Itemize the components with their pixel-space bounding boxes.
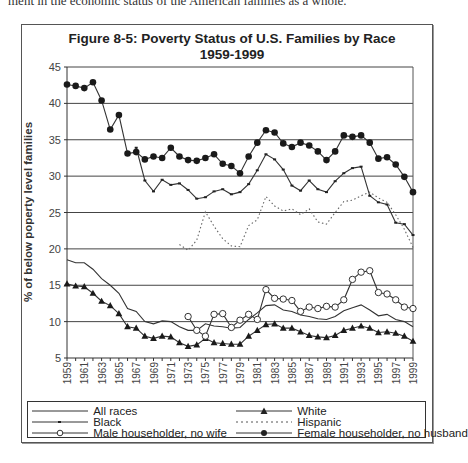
series-black bbox=[135, 147, 415, 236]
legend-item-male-householder: Male householder, no wife bbox=[30, 426, 227, 438]
x-tick-label: 1963 bbox=[97, 362, 108, 385]
x-tick-label: 1971 bbox=[166, 362, 177, 385]
x-tick-label: 1961 bbox=[79, 362, 90, 385]
gridlines bbox=[67, 67, 413, 322]
y-axis-ticks: 51015202530354045 bbox=[49, 61, 67, 364]
line-chart: Figure 8-5: Poverty Status of U.S. Famil… bbox=[0, 0, 450, 400]
x-tick-label: 1975 bbox=[200, 362, 211, 385]
x-tick-label: 1967 bbox=[131, 362, 142, 385]
legend-label: Female householder, no husband bbox=[297, 427, 468, 439]
chart-legend: All races Black Male householder, no wif… bbox=[27, 401, 426, 438]
chart-title: Figure 8-5: Poverty Status of U.S. Famil… bbox=[68, 31, 396, 46]
x-tick-label: 1997 bbox=[391, 362, 402, 385]
x-axis-ticks: 1959196119631965196719691971197319751977… bbox=[62, 358, 419, 384]
x-tick-label: 1979 bbox=[235, 362, 246, 385]
x-tick-label: 1991 bbox=[339, 362, 350, 385]
x-tick-label: 1993 bbox=[356, 362, 367, 385]
legend-swatch-filled-circle-icon bbox=[234, 428, 294, 438]
y-tick-label: 15 bbox=[49, 279, 61, 291]
legend-swatch-open-circle-icon bbox=[30, 428, 90, 438]
y-tick-label: 30 bbox=[49, 170, 61, 182]
y-tick-label: 45 bbox=[49, 61, 61, 73]
y-tick-label: 5 bbox=[55, 352, 61, 364]
x-tick-label: 1995 bbox=[373, 362, 384, 385]
x-tick-label: 1987 bbox=[304, 362, 315, 385]
x-tick-label: 1965 bbox=[114, 362, 125, 385]
x-tick-label: 1977 bbox=[218, 362, 229, 385]
legend-item-female-householder: Female householder, no husband bbox=[234, 426, 468, 438]
series-female-householder-no-husband bbox=[64, 79, 417, 195]
series-hispanic bbox=[179, 192, 413, 250]
x-tick-label: 1983 bbox=[270, 362, 281, 385]
x-tick-label: 1985 bbox=[287, 362, 298, 385]
x-tick-label: 1973 bbox=[183, 362, 194, 385]
y-tick-label: 40 bbox=[49, 97, 61, 109]
data-series bbox=[64, 79, 417, 349]
y-tick-label: 20 bbox=[49, 243, 61, 255]
y-tick-label: 10 bbox=[49, 316, 61, 328]
x-tick-label: 1959 bbox=[62, 362, 73, 385]
x-tick-label: 1981 bbox=[252, 362, 263, 385]
y-tick-label: 25 bbox=[49, 207, 61, 219]
y-axis-label: % of below poperty level families bbox=[22, 122, 34, 302]
legend-label: Male householder, no wife bbox=[93, 427, 227, 439]
y-tick-label: 35 bbox=[49, 134, 61, 146]
x-tick-label: 1999 bbox=[408, 362, 419, 385]
x-tick-label: 1969 bbox=[149, 362, 160, 385]
x-tick-label: 1989 bbox=[322, 362, 333, 385]
chart-subtitle: 1959-1999 bbox=[200, 47, 265, 62]
